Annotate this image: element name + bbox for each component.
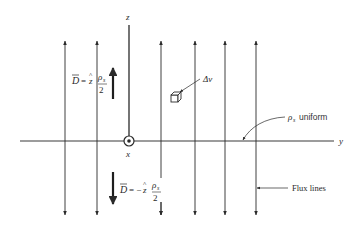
d-symbol: D	[119, 184, 128, 195]
delta-v-label: Δv	[202, 74, 212, 84]
z-axis-label: z	[125, 12, 130, 22]
lower-d-equation: D = − z ^ ρ s 2	[119, 180, 161, 203]
volume-element-cube-icon	[171, 92, 181, 102]
charge-uniform-label: ρ s uniform	[287, 112, 327, 123]
rho-sub: s	[103, 77, 106, 83]
denominator: 2	[153, 193, 158, 203]
upper-d-equation: D = z ^ ρ s 2	[71, 71, 107, 95]
charge-label-leader	[243, 117, 285, 140]
volume-element-leader	[180, 79, 200, 92]
equals: =	[81, 76, 86, 86]
denominator: 2	[99, 85, 104, 95]
svg-text:s: s	[293, 117, 296, 123]
flux-lines-label: Flux lines	[292, 183, 326, 193]
d-symbol: D	[71, 75, 80, 86]
y-axis-label: y	[338, 136, 343, 146]
flux-diagram: y z x D = z ^ ρ s 2	[0, 0, 360, 226]
equals-minus: = −	[129, 185, 141, 195]
svg-text:uniform: uniform	[299, 112, 327, 122]
